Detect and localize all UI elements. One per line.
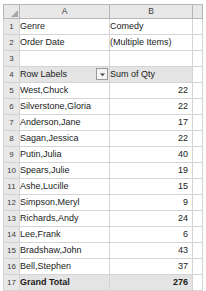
- tail-cell[interactable]: [193, 115, 203, 131]
- tail-cell[interactable]: [193, 67, 203, 83]
- column-header-row: A B: [4, 5, 203, 19]
- table-row: 13Richards,Andy24: [4, 211, 203, 227]
- order-date-filter-value[interactable]: (Multiple Items): [110, 35, 193, 51]
- row-labels-header[interactable]: Row Labels: [20, 67, 110, 83]
- pivot-row-value[interactable]: 37: [110, 259, 193, 275]
- table-row: 5West,Chuck22: [4, 83, 203, 99]
- pivot-row-label[interactable]: Lee,Frank: [20, 227, 110, 243]
- pivot-row-label[interactable]: Putin,Julia: [20, 147, 110, 163]
- row-header-15[interactable]: 15: [4, 243, 20, 259]
- pivot-row-value[interactable]: 6: [110, 227, 193, 243]
- pivot-header-row: 4 Row Labels Sum of Qty: [4, 67, 203, 83]
- pivot-row-label[interactable]: Bradshaw,John: [20, 243, 110, 259]
- tail-cell[interactable]: [193, 275, 203, 291]
- row-header-10[interactable]: 10: [4, 163, 20, 179]
- table-row: 12Simpson,Meryl9: [4, 195, 203, 211]
- worksheet-grid: A B 1 Genre Comedy: [3, 4, 203, 291]
- pivot-row-value[interactable]: 22: [110, 83, 193, 99]
- genre-field-label[interactable]: Genre: [20, 19, 110, 35]
- pivot-row-value[interactable]: 17: [110, 115, 193, 131]
- table-row: 8Sagan,Jessica22: [4, 131, 203, 147]
- tail-cell[interactable]: [193, 19, 203, 35]
- pivot-row-value[interactable]: 9: [110, 195, 193, 211]
- tail-cell[interactable]: [193, 163, 203, 179]
- pivot-row-value[interactable]: 19: [110, 163, 193, 179]
- order-date-field-label[interactable]: Order Date: [20, 35, 110, 51]
- table-row: 14Lee,Frank6: [4, 227, 203, 243]
- row-header-16[interactable]: 16: [4, 259, 20, 275]
- row-header-14[interactable]: 14: [4, 227, 20, 243]
- tail-cell[interactable]: [193, 131, 203, 147]
- pivot-row-label[interactable]: West,Chuck: [20, 83, 110, 99]
- pivot-row-label[interactable]: Anderson,Jane: [20, 115, 110, 131]
- column-header-tail[interactable]: [193, 5, 203, 19]
- pivot-row-value[interactable]: 22: [110, 131, 193, 147]
- pivot-row-value[interactable]: 24: [110, 211, 193, 227]
- tail-cell[interactable]: [193, 51, 203, 67]
- tail-cell[interactable]: [193, 243, 203, 259]
- table-row: 9Putin,Julia40: [4, 147, 203, 163]
- row-header-3[interactable]: 3: [4, 51, 20, 67]
- table-row: 1 Genre Comedy: [4, 19, 203, 35]
- pivot-row-label[interactable]: Silverstone,Gloria: [20, 99, 110, 115]
- row-header-2[interactable]: 2: [4, 35, 20, 51]
- tail-cell[interactable]: [193, 195, 203, 211]
- row-header-8[interactable]: 8: [4, 131, 20, 147]
- grand-total-value[interactable]: 276: [110, 275, 193, 291]
- row-header-7[interactable]: 7: [4, 115, 20, 131]
- tail-cell[interactable]: [193, 259, 203, 275]
- row-header-9[interactable]: 9: [4, 147, 20, 163]
- table-row: 11Ashe,Lucille15: [4, 179, 203, 195]
- table-row: 10Spears,Julie19: [4, 163, 203, 179]
- tail-cell[interactable]: [193, 35, 203, 51]
- pivot-row-value[interactable]: 40: [110, 147, 193, 163]
- table-row: 3: [4, 51, 203, 67]
- grand-total-label[interactable]: Grand Total: [20, 275, 110, 291]
- empty-cell-a3[interactable]: [20, 51, 110, 67]
- row-header-1[interactable]: 1: [4, 19, 20, 35]
- column-header-b[interactable]: B: [110, 5, 193, 19]
- row-header-12[interactable]: 12: [4, 195, 20, 211]
- table-row: 7Anderson,Jane17: [4, 115, 203, 131]
- table-row: 6Silverstone,Gloria22: [4, 99, 203, 115]
- tail-cell[interactable]: [193, 211, 203, 227]
- tail-cell[interactable]: [193, 227, 203, 243]
- row-header-11[interactable]: 11: [4, 179, 20, 195]
- genre-filter-value[interactable]: Comedy: [110, 19, 193, 35]
- row-header-5[interactable]: 5: [4, 83, 20, 99]
- pivot-row-value[interactable]: 43: [110, 243, 193, 259]
- genre-value-text: Comedy: [110, 21, 144, 31]
- table-row: 2 Order Date (Multiple Items): [4, 35, 203, 51]
- table-row: 16Bell,Stephen37: [4, 259, 203, 275]
- pivot-row-label[interactable]: Bell,Stephen: [20, 259, 110, 275]
- tail-cell[interactable]: [193, 99, 203, 115]
- tail-cell[interactable]: [193, 179, 203, 195]
- row-labels-dropdown-button[interactable]: [96, 68, 108, 80]
- pivot-row-label[interactable]: Richards,Andy: [20, 211, 110, 227]
- pivot-row-label[interactable]: Sagan,Jessica: [20, 131, 110, 147]
- tail-cell[interactable]: [193, 83, 203, 99]
- pivot-row-value[interactable]: 22: [110, 99, 193, 115]
- tail-cell[interactable]: [193, 147, 203, 163]
- select-all-corner[interactable]: [4, 5, 20, 19]
- row-header-13[interactable]: 13: [4, 211, 20, 227]
- grand-total-row: 17 Grand Total 276: [4, 275, 203, 291]
- table-row: 15Bradshaw,John43: [4, 243, 203, 259]
- pivot-row-label[interactable]: Ashe,Lucille: [20, 179, 110, 195]
- pivot-row-label[interactable]: Spears,Julie: [20, 163, 110, 179]
- row-header-6[interactable]: 6: [4, 99, 20, 115]
- order-date-value-text: (Multiple Items): [110, 37, 172, 47]
- empty-cell-b3[interactable]: [110, 51, 193, 67]
- pivot-row-value[interactable]: 15: [110, 179, 193, 195]
- column-header-a[interactable]: A: [20, 5, 110, 19]
- pivot-row-label[interactable]: Simpson,Meryl: [20, 195, 110, 211]
- select-all-triangle-icon: [11, 10, 18, 17]
- row-labels-header-text: Row Labels: [20, 69, 67, 79]
- row-header-17[interactable]: 17: [4, 275, 20, 291]
- chevron-down-icon: [99, 71, 106, 78]
- sum-of-qty-header[interactable]: Sum of Qty: [110, 67, 193, 83]
- row-header-4[interactable]: 4: [4, 67, 20, 83]
